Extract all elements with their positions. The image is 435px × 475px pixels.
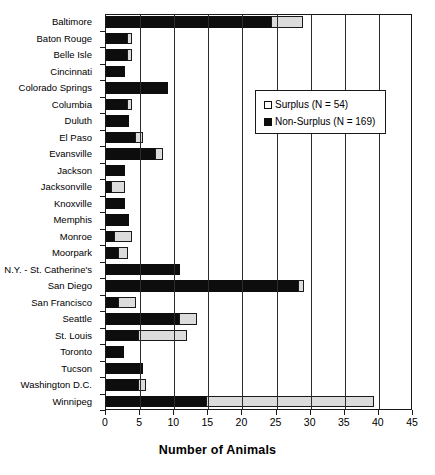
x-axis-title: Number of Animals [0,443,435,457]
legend-swatch-non-surplus-icon [264,118,272,126]
legend-item-surplus: Surplus (N = 54) [264,96,385,113]
y-axis-tick [100,295,105,296]
y-axis-label: Jackson [57,165,92,176]
y-axis-tick [100,278,105,279]
y-axis-tick [100,245,105,246]
y-axis-tick [100,196,105,197]
y-axis-label: Cincinnati [50,66,92,77]
y-axis-label: San Diego [48,280,92,291]
x-axis-tick [105,410,106,415]
x-axis-tick [241,410,242,415]
y-axis-label: Washington D.C. [21,379,92,390]
y-axis-label: Toronto [60,346,92,357]
y-axis-tick [100,64,105,65]
y-axis-tick [100,229,105,230]
plot-border [105,14,412,410]
x-axis-tick-label: 30 [295,416,325,428]
legend-label-non-surplus: Non-Surplus (N = 169) [275,116,375,127]
y-axis-tick [100,328,105,329]
y-axis-tick [100,130,105,131]
legend-swatch-surplus-icon [264,101,272,109]
x-axis-tick [344,410,345,415]
y-axis-label: Winnipeg [52,396,92,407]
y-axis-tick [100,212,105,213]
y-axis-labels: BaltimoreBaton RougeBelle IsleCincinnati… [0,14,100,410]
y-axis-tick [100,179,105,180]
x-axis-tick-label: 0 [90,416,120,428]
x-axis-tick-label: 5 [124,416,154,428]
y-axis-tick [100,97,105,98]
y-axis-tick [100,113,105,114]
x-axis-tick [276,410,277,415]
x-axis-tick [412,410,413,415]
y-axis-label: Baltimore [52,16,92,27]
y-axis-label: N.Y. - St. Catherine's [4,264,92,275]
x-axis-tick-label: 20 [226,416,256,428]
x-axis-tick [207,410,208,415]
x-axis-tick [378,410,379,415]
y-axis-tick [100,80,105,81]
x-axis-tick-labels: 051015202530354045 [0,416,435,432]
x-axis-tick-label: 15 [192,416,222,428]
legend-label-surplus: Surplus (N = 54) [275,99,348,110]
y-axis-label: Jacksonville [41,181,92,192]
y-axis-label: Knoxville [54,198,92,209]
y-axis-label: Monroe [60,231,92,242]
x-axis-tick-label: 40 [363,416,393,428]
y-axis-label: Baton Rouge [37,33,92,44]
y-axis-tick [100,163,105,164]
y-axis-label: Moorpark [52,247,92,258]
x-axis-tick-label: 10 [158,416,188,428]
y-axis-label: St. Louis [55,330,92,341]
y-axis-tick [100,311,105,312]
chart-legend: Surplus (N = 54) Non-Surplus (N = 169) [255,90,386,134]
x-axis-tick [310,410,311,415]
y-axis-label: San Francisco [31,297,92,308]
y-axis-label: Evansville [49,148,92,159]
y-axis-tick [100,262,105,263]
y-axis-label: Columbia [52,99,92,110]
y-axis-tick [100,377,105,378]
y-axis-label: Duluth [65,115,92,126]
x-axis-tick-label: 25 [261,416,291,428]
y-axis-tick [100,361,105,362]
y-axis-tick [100,394,105,395]
x-axis-tick [139,410,140,415]
y-axis-tick [100,31,105,32]
y-axis-label: Seattle [62,313,92,324]
y-axis-tick [100,344,105,345]
y-axis-tick [100,47,105,48]
y-axis-label: Memphis [53,214,92,225]
x-axis-tick-label: 35 [329,416,359,428]
y-axis-label: El Paso [59,132,92,143]
x-axis-tick-label: 45 [397,416,427,428]
y-axis-label: Tucson [61,363,92,374]
bar-chart: BaltimoreBaton RougeBelle IsleCincinnati… [0,0,435,475]
x-axis-tick [173,410,174,415]
legend-item-non-surplus: Non-Surplus (N = 169) [264,113,385,130]
y-axis-label: Colorado Springs [19,82,92,93]
y-axis-label: Belle Isle [53,49,92,60]
y-axis-tick [100,146,105,147]
